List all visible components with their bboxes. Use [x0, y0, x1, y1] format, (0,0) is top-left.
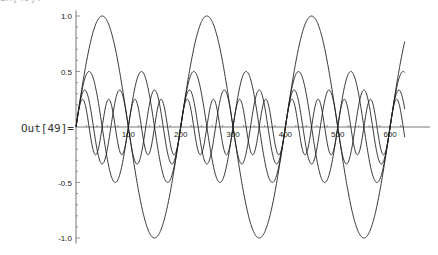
y-tick-label: -1.0	[58, 234, 72, 243]
axes: 100200300400500600-1.0-0.50.51.0	[58, 10, 430, 243]
y-tick-label: 0.5	[61, 68, 73, 77]
y-tick-label: -0.5	[58, 179, 72, 188]
y-tick-label: 1.0	[61, 12, 73, 21]
x-tick-label: 400	[279, 130, 293, 139]
x-tick-label: 200	[174, 130, 188, 139]
x-tick-label: 600	[383, 130, 397, 139]
line-plot: 100200300400500600-1.0-0.50.51.0	[0, 0, 438, 255]
